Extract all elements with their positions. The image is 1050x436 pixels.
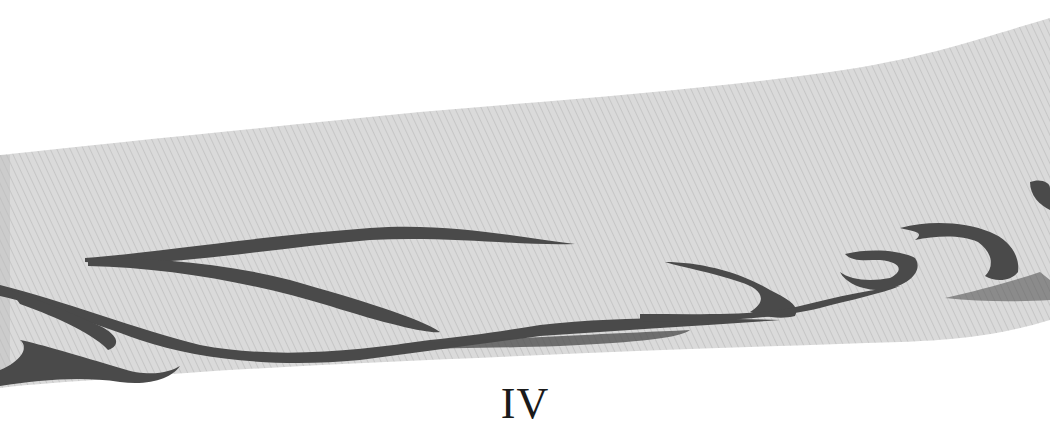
plate-caption: IV <box>0 382 1050 426</box>
calligraphy-illustration <box>0 0 1050 436</box>
band-edge-shadow <box>0 155 10 385</box>
calligraphy-plate <box>0 0 1050 436</box>
